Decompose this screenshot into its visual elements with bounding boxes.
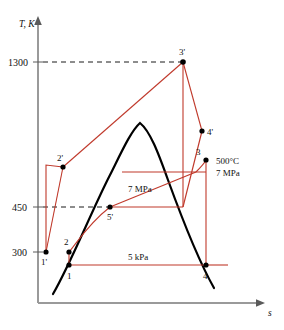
marker-point-1 — [66, 262, 71, 267]
saturation-dome-curve — [53, 123, 214, 294]
ts-diagram-canvas: T, K s 1300 450 300 1 2 3 4 1' 2' 3' 4' … — [0, 0, 284, 330]
point-label-4p: 4' — [207, 127, 214, 137]
y-tick-label-300: 300 — [12, 247, 27, 258]
y-axis-label: T, K — [19, 19, 35, 29]
point-label-3p: 3' — [179, 47, 186, 57]
marker-point-3 — [203, 157, 208, 162]
process-1p-to-2p-pump — [46, 167, 63, 252]
marker-point-3p — [180, 59, 186, 65]
point-label-2: 2 — [64, 237, 69, 247]
marker-point-4p — [199, 128, 204, 133]
y-tick-label-450: 450 — [12, 202, 27, 213]
y-tick-label-1300: 1300 — [8, 57, 28, 68]
x-axis-arrow-icon — [256, 299, 265, 307]
point-label-2p: 2' — [57, 153, 64, 163]
point-label-5p: 5' — [107, 212, 114, 222]
process-2-to-5p-heating — [69, 207, 110, 252]
ts-diagram-figure: T, K s 1300 450 300 1 2 3 4 1' 2' 3' 4' … — [0, 0, 284, 330]
y-axis-arrow-icon — [34, 16, 42, 25]
point-label-1: 1 — [67, 271, 72, 281]
point-label-3: 3 — [196, 147, 201, 157]
marker-point-2p — [60, 164, 65, 169]
annotation-isobar-7mpa: 7 MPa — [128, 184, 152, 194]
point-label-4: 4 — [203, 271, 208, 281]
marker-point-1p — [43, 249, 48, 254]
x-axis-label: s — [268, 308, 272, 318]
annotation-inlet-pressure: 7 MPa — [216, 168, 240, 178]
marker-point-4 — [203, 262, 208, 267]
annotation-isobar-5kpa: 5 kPa — [128, 252, 148, 262]
topping-cycle-group — [46, 62, 202, 252]
marker-point-2 — [66, 249, 71, 254]
point-label-1p: 1' — [41, 257, 48, 267]
guide-lines-group — [43, 62, 181, 207]
process-3p-to-4p-expansion — [183, 62, 202, 131]
marker-point-5p — [107, 204, 112, 209]
text-labels-group: T, K s 1300 450 300 1 2 3 4 1' 2' 3' 4' … — [8, 19, 272, 318]
annotation-inlet-temperature: 500°C — [216, 156, 239, 166]
saturation-dome-group — [53, 123, 214, 294]
